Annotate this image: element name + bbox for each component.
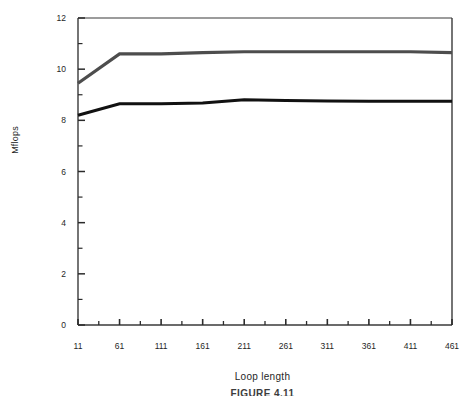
figure-caption: FIGURE 4.11: [72, 388, 453, 396]
y-tick-label: 6: [42, 167, 66, 177]
x-tick-label: 411: [393, 341, 427, 351]
x-tick-label: 61: [103, 341, 137, 351]
x-tick-label: 11: [61, 341, 95, 351]
y-tick-label: 4: [42, 218, 66, 228]
y-tick-label: 8: [42, 115, 66, 125]
y-tick-label: 12: [42, 13, 66, 23]
x-tick-label: 361: [352, 341, 386, 351]
figure-root: Mflops 024681012 11611111612112613113614…: [0, 0, 473, 396]
x-tick-label: 461: [435, 341, 469, 351]
x-tick-label: 111: [144, 341, 178, 351]
y-tick-label: 2: [42, 269, 66, 279]
x-tick-label: 261: [269, 341, 303, 351]
plot-background: [78, 18, 452, 325]
x-tick-label: 311: [310, 341, 344, 351]
y-tick-label: 10: [42, 64, 66, 74]
x-axis-title: Loop length: [72, 371, 453, 382]
y-tick-label: 0: [42, 320, 66, 330]
x-tick-label: 211: [227, 341, 261, 351]
y-axis-title: Mflops: [10, 100, 30, 180]
line-chart-plot: [0, 0, 473, 396]
x-tick-label: 161: [186, 341, 220, 351]
